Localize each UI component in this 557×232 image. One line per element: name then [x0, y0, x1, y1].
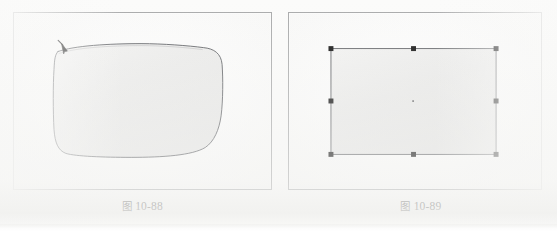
figure-caption-number-left: 10-88	[135, 200, 163, 212]
handle-top-left[interactable]	[328, 46, 333, 51]
figure-caption-label-left: 图	[122, 200, 132, 212]
figure-panel-10-89	[288, 12, 542, 190]
freehand-shape-canvas	[14, 13, 271, 189]
handle-top-right[interactable]	[494, 46, 499, 51]
handle-middle-left[interactable]	[328, 99, 333, 104]
figure-caption-10-88: 图10-88	[0, 200, 285, 213]
handle-bottom-left[interactable]	[328, 152, 333, 157]
handle-middle-right[interactable]	[494, 99, 499, 104]
figure-caption-10-89: 图10-89	[285, 200, 557, 213]
handle-top-center[interactable]	[411, 46, 416, 51]
figure-caption-label-right: 图	[400, 200, 410, 212]
page-bottom-edge	[0, 224, 557, 232]
freehand-closed-shape	[53, 44, 222, 158]
selected-rectangle-canvas	[289, 13, 541, 189]
center-origin-point	[412, 100, 414, 102]
scanned-page: 图10-88 图10-89	[0, 0, 557, 232]
handle-bottom-right[interactable]	[494, 152, 499, 157]
figure-panel-10-88	[13, 12, 272, 190]
handle-bottom-center[interactable]	[411, 152, 416, 157]
figure-caption-number-right: 10-89	[414, 200, 442, 212]
